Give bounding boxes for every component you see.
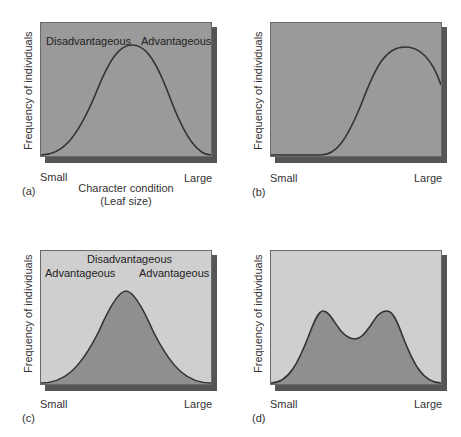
panel-b-plot-area (270, 22, 442, 157)
annotation-advantageous-left: Advantageous (45, 267, 115, 279)
panel-c-x-tick-small: Small (40, 398, 68, 410)
panel-d-x-tick-small: Small (270, 398, 298, 410)
panel-a-y-axis-label: Frequency of individuals (22, 31, 34, 150)
x-axis-title-line2: (Leaf size) (56, 195, 196, 208)
panel-d-y-axis-label: Frequency of individuals (252, 254, 264, 373)
panel-c-x-tick-large: Large (184, 398, 212, 410)
panel-b-label: (b) (252, 186, 265, 198)
annotation-disadvantageous: Disadvantageous (87, 253, 172, 265)
panel-a-x-axis-title: Character condition (Leaf size) (56, 182, 196, 208)
annotation-advantageous-right: Advantageous (139, 267, 209, 279)
panel-a-label: (a) (22, 185, 35, 197)
panel-c-y-axis-label: Frequency of individuals (22, 254, 34, 373)
annotation-disadvantageous: Disadvantageous (46, 35, 131, 47)
panel-c: Disadvantageous Advantageous Advantageou… (0, 220, 230, 437)
panel-d-plot-area (270, 250, 442, 385)
x-axis-title-line1: Character condition (56, 182, 196, 195)
panel-d-label: (d) (252, 412, 265, 424)
panel-a-plot-area: Disadvantageous Advantageous (40, 22, 212, 157)
panel-b-curve (271, 23, 441, 156)
annotation-advantageous: Advantageous (141, 35, 211, 47)
panel-b: Frequency of individuals Small Large (b) (230, 0, 460, 218)
panel-a: Disadvantageous Advantageous Frequency o… (0, 0, 230, 218)
panel-d-curve (271, 251, 441, 384)
panel-d-x-tick-large: Large (414, 398, 442, 410)
panel-c-label: (c) (22, 412, 35, 424)
panel-b-y-axis-label: Frequency of individuals (252, 31, 264, 150)
panel-b-x-tick-small: Small (270, 172, 298, 184)
panel-c-plot-area: Disadvantageous Advantageous Advantageou… (40, 250, 212, 385)
panel-d: Frequency of individuals Small Large (d) (230, 220, 460, 437)
panel-b-x-tick-large: Large (414, 172, 442, 184)
